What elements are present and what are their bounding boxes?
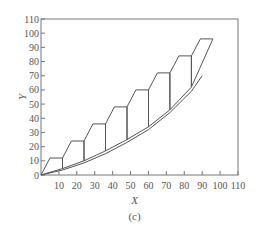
y-tick-label: 110: [24, 14, 39, 25]
x-tick-label: 100: [213, 180, 228, 191]
y-tick-label: 20: [29, 141, 39, 152]
figure-caption: (c): [128, 210, 141, 223]
y-tick-label: 40: [29, 113, 39, 124]
series-lower-curve: [41, 76, 202, 175]
series-staircase: [41, 39, 213, 175]
y-tick-label: 50: [29, 99, 39, 110]
plot-frame: [41, 19, 238, 175]
x-axis-label: X: [130, 194, 139, 206]
x-tick-label: 80: [179, 180, 189, 191]
x-tick-label: 10: [54, 180, 64, 191]
x-tick-label: 110: [231, 180, 246, 191]
x-tick-label: 60: [143, 180, 153, 191]
x-tick-label: 20: [72, 180, 82, 191]
chart-figure: 0102030405060708090100110102030405060708…: [0, 0, 261, 233]
x-tick-label: 40: [108, 180, 118, 191]
y-tick-label: 0: [34, 170, 39, 181]
x-tick-label: 50: [126, 180, 136, 191]
y-tick-label: 30: [29, 127, 39, 138]
y-tick-label: 70: [29, 70, 39, 81]
y-tick-label: 90: [29, 42, 39, 53]
x-tick-label: 70: [161, 180, 171, 191]
y-axis-label: Y: [16, 92, 28, 100]
y-tick-label: 100: [24, 28, 39, 39]
y-tick-label: 10: [29, 155, 39, 166]
y-tick-label: 60: [29, 84, 39, 95]
x-tick-label: 30: [90, 180, 100, 191]
x-tick-label: 90: [197, 180, 207, 191]
y-tick-label: 80: [29, 56, 39, 67]
